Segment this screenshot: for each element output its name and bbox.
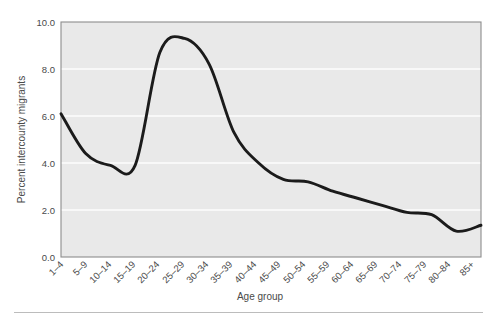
figure-container: 10.0 8.0 6.0 4.0 2.0 0.0 Percent interco… xyxy=(0,0,497,326)
y-tick-label-0: 0.0 xyxy=(42,252,55,263)
y-axis-title: Percent intercounty migrants xyxy=(16,76,27,203)
y-tick-label-4: 4.0 xyxy=(42,158,55,169)
plot-area-background xyxy=(61,22,481,257)
migration-by-age-line-chart: 10.0 8.0 6.0 4.0 2.0 0.0 Percent interco… xyxy=(0,0,497,326)
x-axis-title: Age group xyxy=(237,291,284,302)
y-tick-label-8: 8.0 xyxy=(42,64,55,75)
y-tick-label-2: 2.0 xyxy=(42,205,55,216)
y-tick-label-6: 6.0 xyxy=(42,111,55,122)
y-tick-label-10: 10.0 xyxy=(37,17,56,28)
